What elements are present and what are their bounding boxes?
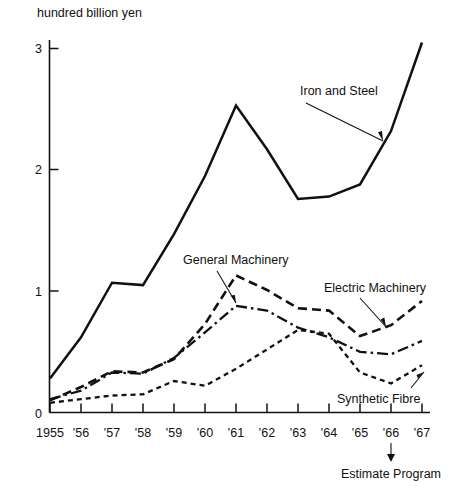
y-tick-label-0: 0 <box>35 407 42 421</box>
x-tick-label-1963: '63 <box>290 426 306 440</box>
x-tick-label-1966: '66 <box>383 426 399 440</box>
series-label-synthetic-fibre: Synthetic Fibre <box>337 392 420 406</box>
annotation-synthetic-fibre: Synthetic Fibre <box>337 372 424 406</box>
y-axis-ticks: 3 2 1 0 <box>35 42 58 421</box>
y-tick-label-2: 2 <box>35 163 42 177</box>
series-label-general-machinery: General Machinery <box>183 253 289 267</box>
y-tick-label-3: 3 <box>35 42 42 56</box>
x-tick-label-1957: '57 <box>104 426 120 440</box>
x-tick-label-1961: '61 <box>228 426 244 440</box>
x-tick-label-1959: '59 <box>166 426 182 440</box>
arrowhead-icon-general-machinery <box>229 294 238 303</box>
x-tick-label-1965: '65 <box>352 426 368 440</box>
y-tick-label-1: 1 <box>35 285 42 299</box>
annotation-iron-and-steel: Iron and Steel <box>300 84 387 141</box>
x-axis-ticks: 1955'56'57'58'59'60'61'62'63'64'65'66'67 <box>36 404 430 441</box>
leader-line-electric-machinery <box>360 298 386 327</box>
x-tick-label-1955: 1955 <box>36 426 64 440</box>
series-label-electric-machinery: Electric Machinery <box>324 281 427 295</box>
chart-canvas: hundred billion yen 3 2 1 0 1955'56'57'5… <box>0 0 454 486</box>
annotation-label-estimate-program: Estimate Program <box>341 467 441 481</box>
x-tick-label-1964: '64 <box>321 426 337 440</box>
x-tick-label-1967: '67 <box>414 426 430 440</box>
leader-line-synthetic-fibre <box>411 372 424 388</box>
x-tick-label-1962: '62 <box>259 426 275 440</box>
arrowhead-icon-estimate-program <box>387 454 395 462</box>
arrowhead-icon-synthetic-fibre <box>417 372 425 379</box>
leader-line-iron-and-steel <box>306 103 383 141</box>
series-label-iron-and-steel: Iron and Steel <box>300 84 378 98</box>
annotation-estimate-program: Estimate Program <box>341 443 441 481</box>
x-tick-label-1958: '58 <box>135 426 151 440</box>
line-chart: hundred billion yen 3 2 1 0 1955'56'57'5… <box>0 0 454 486</box>
y-axis-title: hundred billion yen <box>37 6 142 20</box>
series-line-electric-machinery <box>50 306 422 399</box>
x-tick-label-1956: '56 <box>73 426 89 440</box>
annotation-general-machinery: General Machinery <box>183 253 289 303</box>
x-tick-label-1960: '60 <box>197 426 213 440</box>
